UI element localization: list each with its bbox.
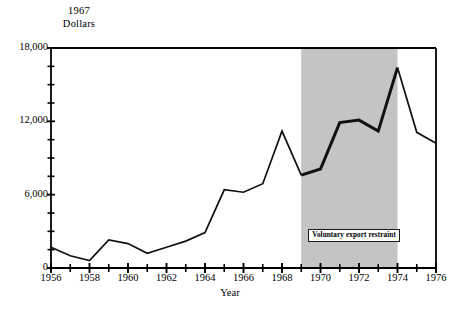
plot-area xyxy=(0,0,457,313)
x-axis-tick-label: 1958 xyxy=(70,272,110,283)
x-axis-tick-label: 1972 xyxy=(339,272,379,283)
x-axis-title: Year xyxy=(185,287,275,298)
x-axis-tick-label: 1974 xyxy=(378,272,418,283)
x-axis-tick-label: 1960 xyxy=(108,272,148,283)
x-axis-tick-label: 1966 xyxy=(224,272,264,283)
annotation-voluntary-export-restraint: Voluntary export restraint xyxy=(308,229,400,242)
x-axis-tick-label: 1976 xyxy=(416,272,456,283)
x-axis-tick-label: 1964 xyxy=(185,272,225,283)
x-axis-tick-label: 1956 xyxy=(31,272,71,283)
chart-figure: 1967 Dollars 06,00012,00018,000 19561958… xyxy=(0,0,457,313)
x-axis-tick-label: 1968 xyxy=(262,272,302,283)
x-axis-tick-label: 1962 xyxy=(147,272,187,283)
x-axis-tick-label: 1970 xyxy=(301,272,341,283)
